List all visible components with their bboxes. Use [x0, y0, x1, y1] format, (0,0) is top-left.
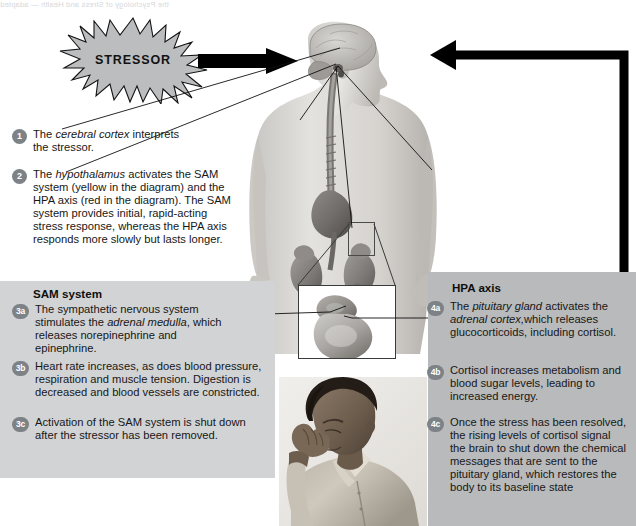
- step-4c-text: Once the stress has been resolved, the r…: [450, 416, 626, 493]
- step-1-badge: 1: [12, 129, 27, 144]
- stressed-person-photo: [279, 377, 427, 526]
- step-4c: 4c Once the stress has been resolved, th…: [430, 416, 626, 493]
- step-4c-badge: 4c: [427, 417, 444, 432]
- step-4b: 4b Cortisol increases metabolism and blo…: [430, 364, 626, 403]
- step-4b-badge: 4b: [427, 365, 444, 380]
- step-4a-badge: 4a: [427, 301, 444, 316]
- step-3a: 3a The sympathetic nervous system stimul…: [12, 303, 237, 355]
- step-1: 1 The cerebral cortex interprets the str…: [12, 128, 197, 154]
- hpa-axis-heading: HPA axis: [452, 281, 501, 294]
- stressor-burst: STRESSOR: [44, 16, 222, 104]
- step-4b-text: Cortisol increases metabolism and blood …: [450, 364, 626, 403]
- step-4a: 4a The pituitary gland activates the adr…: [430, 300, 630, 339]
- step-2: 2 The hypothalamus activates the SAM sys…: [12, 168, 234, 245]
- step-3c-badge: 3c: [12, 417, 29, 432]
- magnifier-cone: [296, 222, 396, 288]
- step-3c: 3c Activation of the SAM system is shut …: [12, 416, 247, 442]
- step-3b-badge: 3b: [12, 361, 29, 376]
- step-3a-text: The sympathetic nervous system stimulate…: [35, 303, 237, 355]
- step-2-badge: 2: [12, 169, 27, 184]
- step-1-text: The cerebral cortex interprets the stres…: [33, 128, 197, 154]
- page-bleed-text: the Psychology of Stress and Health — ad…: [0, 0, 636, 14]
- adrenal-gland-inset: [298, 285, 396, 359]
- step-3b: 3b Heart rate increases, as does blood p…: [12, 360, 274, 399]
- step-4a-text: The pituitary gland activates the adrena…: [450, 300, 630, 339]
- diagram-canvas: the Psychology of Stress and Health — ad…: [0, 0, 636, 526]
- sam-system-heading: SAM system: [33, 287, 102, 300]
- step-3b-text: Heart rate increases, as does blood pres…: [35, 360, 274, 399]
- step-3a-badge: 3a: [12, 304, 29, 319]
- step-2-text: The hypothalamus activates the SAM syste…: [33, 168, 234, 245]
- step-3c-text: Activation of the SAM system is shut dow…: [35, 416, 247, 442]
